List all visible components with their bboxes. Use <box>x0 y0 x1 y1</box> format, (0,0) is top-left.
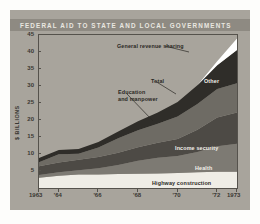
annotation-general-revenue-sharing: General revenue sharing <box>117 43 184 49</box>
annotation-total: Total <box>151 78 164 84</box>
y-tick-mark <box>38 68 41 69</box>
y-tick-label: 25 <box>27 99 34 106</box>
y-tick-mark <box>38 34 41 35</box>
y-tick-label: 30 <box>27 82 34 89</box>
x-tick-label: '66 <box>93 192 101 199</box>
chart-figure: FEDERAL AID TO STATE AND LOCAL GOVERNMEN… <box>0 0 260 224</box>
y-tick-label: 40 <box>27 48 34 55</box>
y-tick-label: 5 <box>31 167 34 174</box>
y-tick-label: 45 <box>27 31 34 38</box>
x-tick-mark <box>236 189 237 192</box>
y-tick-mark <box>38 153 41 154</box>
y-tick-mark <box>38 51 41 52</box>
x-tick-label: '72 <box>212 192 220 199</box>
y-tick-label: 15 <box>27 133 34 140</box>
annotation-highway-construction: Highway construction <box>152 180 211 186</box>
y-tick-label: 35 <box>27 65 34 72</box>
x-tick-mark <box>177 189 178 192</box>
y-tick-mark <box>38 119 41 120</box>
y-tick-mark <box>38 85 41 86</box>
annotation-education-and-manpower-line2: and manpower <box>118 96 158 102</box>
y-tick-label: 20 <box>27 116 34 123</box>
x-tick-label: 1973 <box>227 192 240 199</box>
annotation-health: Health <box>195 165 212 171</box>
y-tick-label: 10 <box>27 150 34 157</box>
x-tick-mark <box>38 189 39 192</box>
x-tick-label: '70 <box>173 192 181 199</box>
x-tick-mark <box>137 189 138 192</box>
x-tick-label: '68 <box>133 192 141 199</box>
x-tick-label: 1963 <box>29 192 42 199</box>
annotation-income-security: Income security <box>175 145 218 151</box>
x-tick-mark <box>97 189 98 192</box>
x-tick-mark <box>58 189 59 192</box>
y-tick-mark <box>38 102 41 103</box>
annotation-other: Other <box>204 78 219 84</box>
chart-title: FEDERAL AID TO STATE AND LOCAL GOVERNMEN… <box>20 20 246 31</box>
y-tick-mark <box>38 170 41 171</box>
x-tick-mark <box>216 189 217 192</box>
x-tick-label: '64 <box>54 192 62 199</box>
y-tick-mark <box>38 136 41 137</box>
y-axis-label: $ BILLIONS <box>14 105 20 140</box>
annotation-education-and-manpower-line1: Education <box>118 89 145 95</box>
